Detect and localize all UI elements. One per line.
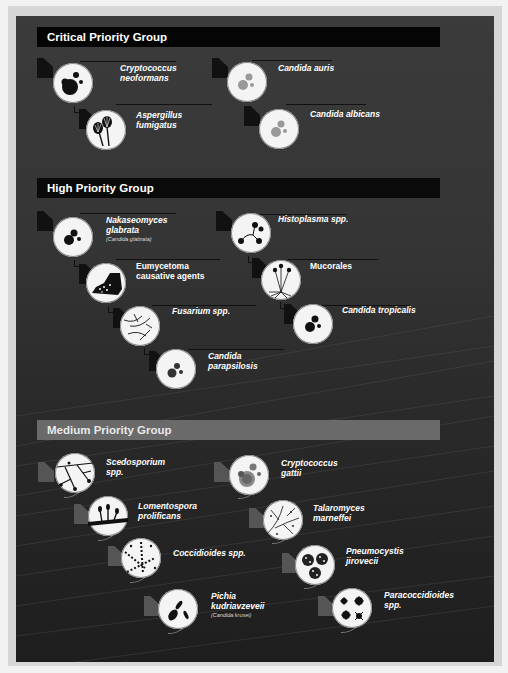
pathogen-label: Lomentosporaprolificans: [138, 501, 197, 521]
pathogen-label: Candida tropicalis: [342, 305, 416, 315]
pathogen-label: Pichiakudriavzeveii: [211, 591, 264, 611]
pneumocystis-icon: [295, 545, 335, 585]
infographic-panel: Critical Priority Group Cryptococcusneof…: [16, 16, 494, 662]
nakaseomyces-icon: [53, 217, 93, 257]
pathogen-label: Candida auris: [278, 63, 334, 73]
flag-marker: [216, 211, 232, 231]
flag-marker: [244, 106, 260, 126]
candida-tropicalis-icon: [293, 304, 333, 344]
pathogen-label: Fusarium spp.: [172, 306, 230, 316]
aspergillus-icon: [86, 110, 126, 150]
label-rule: [80, 61, 176, 62]
flag-marker: [212, 58, 228, 78]
pathogen-label: Cryptococcusneoformans: [120, 63, 177, 83]
pathogen-label: Mucorales: [310, 261, 352, 271]
pathogen-label: Cryptococcusgattii: [281, 458, 338, 478]
label-rule: [188, 349, 284, 350]
mucorales-icon: [261, 260, 301, 300]
candida-parapsilosis-icon: [156, 349, 196, 389]
label-rule: [116, 259, 220, 260]
talaromyces-icon: [263, 500, 303, 540]
pathogen-label: Aspergillusfumigatus: [136, 110, 182, 130]
label-rule: [116, 104, 212, 105]
pathogen-label: Pneumocystisjirovecii: [346, 546, 404, 566]
pichia-icon: [158, 589, 198, 629]
candida-auris-icon: [227, 62, 267, 102]
candida-albicans-icon: [259, 109, 299, 149]
flag-marker: [38, 462, 54, 482]
pathogen-label: Talaromycesmarneffei: [313, 503, 365, 523]
flag-marker: [37, 211, 53, 231]
high-priority-header: High Priority Group: [37, 178, 440, 198]
eumycetoma-foot-icon: [86, 263, 126, 303]
pathogen-label: Nakaseomycesglabrata: [106, 215, 167, 235]
medium-priority-header: Medium Priority Group: [37, 420, 440, 440]
pathogen-synonym: (Candida glabrata): [106, 236, 152, 243]
label-rule: [80, 213, 176, 214]
label-rule: [286, 104, 366, 105]
scedosporium-icon: [55, 453, 95, 493]
flag-marker: [37, 58, 53, 78]
coccidioides-icon: [121, 538, 161, 578]
fusarium-icon: [120, 306, 160, 346]
histoplasma-icon: [231, 213, 271, 253]
pathogen-label: Candidaparapsilosis: [208, 351, 258, 371]
cryptococcus-icon: [53, 63, 93, 103]
label-rule: [288, 259, 378, 260]
pathogen-label: Paracoccidioidesspp.: [384, 590, 454, 610]
pathogen-label: Candida albicans: [310, 109, 380, 119]
lomentospora-icon: [88, 496, 128, 536]
label-rule: [252, 60, 332, 61]
pathogen-synonym: (Candida krusei): [211, 612, 251, 619]
pathogen-label: Scedosporiumspp.: [106, 457, 165, 477]
pathogen-label: Histoplasma spp.: [278, 214, 348, 224]
flag-marker: [214, 462, 230, 482]
cryptococcus-gattii-icon: [229, 455, 269, 495]
pathogen-label: Coccidioides spp.: [173, 548, 246, 558]
critical-priority-header: Critical Priority Group: [37, 27, 440, 47]
pathogen-label: Eumycetomacausative agents: [136, 261, 205, 281]
paracoccidioides-icon: [332, 588, 372, 628]
